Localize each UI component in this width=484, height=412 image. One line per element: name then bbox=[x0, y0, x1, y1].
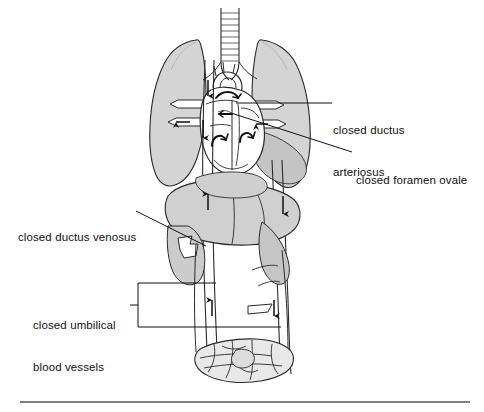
label-line-2: blood vessels bbox=[33, 360, 116, 374]
label-closed-umbilical-blood-vessels: closed umbilical blood vessels bbox=[33, 290, 116, 402]
label-line-1: closed umbilical bbox=[33, 318, 116, 332]
label-line-1: closed foramen ovale bbox=[356, 173, 467, 187]
right-lung bbox=[150, 40, 206, 186]
label-line-1: closed ductus bbox=[333, 123, 405, 137]
trachea-with-cartilage-rings bbox=[203, 8, 257, 80]
heart bbox=[200, 87, 264, 175]
label-closed-ductus-venosus: closed ductus venosus bbox=[18, 202, 136, 272]
label-closed-foramen-ovale: closed foramen ovale bbox=[356, 145, 467, 215]
anatomical-figure: closed ductus arteriosus closed foramen … bbox=[0, 0, 484, 412]
pelvic-bones bbox=[195, 339, 294, 383]
label-line-1: closed ductus venosus bbox=[18, 230, 136, 244]
